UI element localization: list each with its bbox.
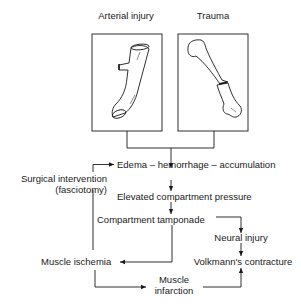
edema-node: Edema – hemorrhage – accumulation (117, 159, 275, 170)
muscle-infarction-line2: infarction (155, 285, 194, 296)
fractured-bone-icon (188, 40, 242, 117)
connector-panels (127, 131, 214, 148)
elevated-pressure-node: Elevated compartment pressure (117, 191, 252, 202)
arterial-injury-panel (92, 34, 162, 131)
muscle-infarction-line1: Muscle (159, 274, 189, 285)
fasciotomy-label: (fasciotomy) (12, 184, 107, 195)
neural-injury-node: Neural injury (214, 232, 267, 243)
compartment-tamponade-node: Compartment tamponade (97, 214, 205, 225)
muscle-ischemia-node: Muscle ischemia (41, 256, 111, 267)
trauma-title: Trauma (197, 10, 229, 21)
surgical-intervention-label: Surgical intervention (12, 173, 107, 184)
arterial-injury-title: Arterial injury (98, 10, 153, 21)
artery-icon (111, 43, 149, 120)
volkmann-contracture-node: Volkmann's contracture (194, 256, 292, 267)
